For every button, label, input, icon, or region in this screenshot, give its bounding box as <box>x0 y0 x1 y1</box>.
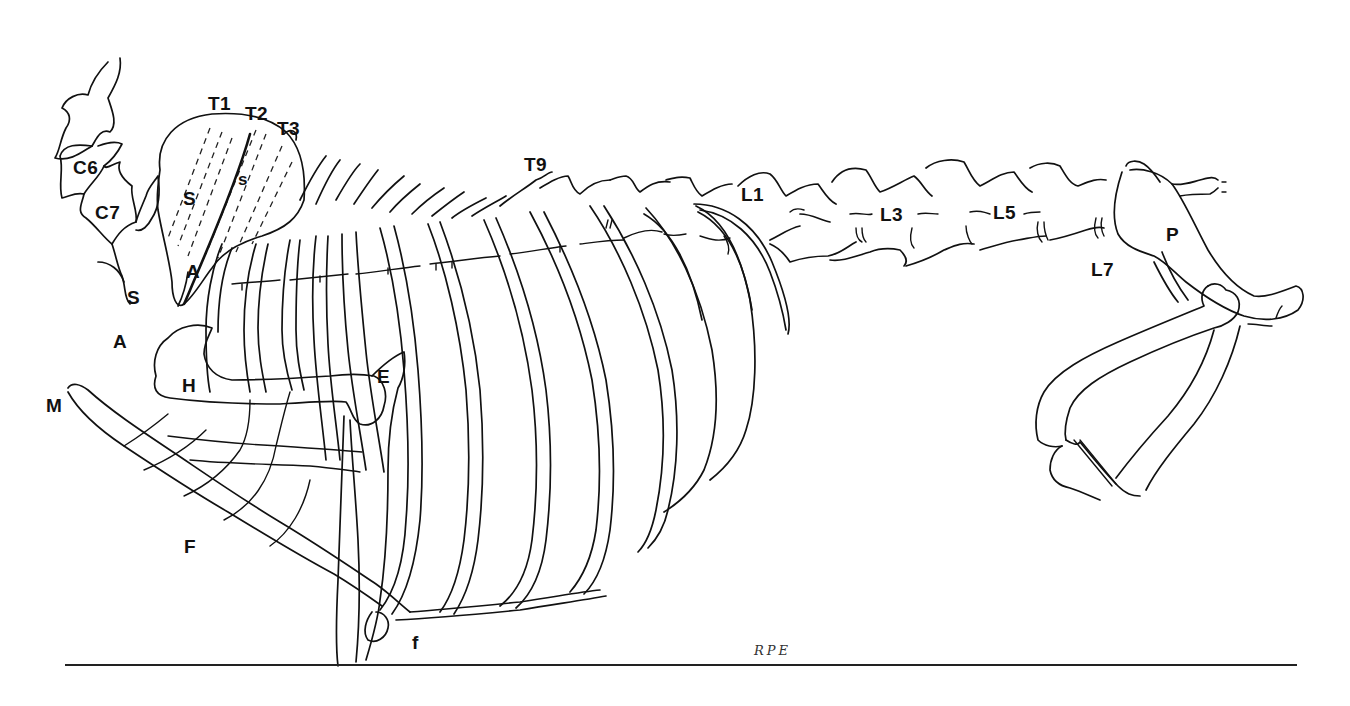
label-T3: T3 <box>277 119 300 138</box>
ribs <box>206 204 789 614</box>
label-scapular-spine-s: s <box>238 171 248 188</box>
femur <box>1036 252 1239 447</box>
scapula <box>157 114 304 306</box>
label-scapula-S: S <box>183 189 196 208</box>
radius-ulna <box>337 352 405 666</box>
label-L5: L5 <box>993 203 1016 222</box>
label-L1: L1 <box>741 185 764 204</box>
label-C6: C6 <box>73 158 98 177</box>
label-T2: T2 <box>245 104 268 123</box>
label-T9: T9 <box>524 155 547 174</box>
label-T1: T1 <box>208 94 231 113</box>
tibia-fibula <box>1050 326 1240 500</box>
label-acromion-A: A <box>186 262 200 281</box>
label-lower-A: A <box>113 332 127 351</box>
label-elbow-E: E <box>377 367 390 386</box>
baseline-rule <box>65 664 1297 666</box>
label-humerus-H: H <box>182 376 196 395</box>
label-lower-S: S <box>127 288 140 307</box>
label-L7: L7 <box>1091 260 1114 279</box>
label-L3: L3 <box>880 205 903 224</box>
label-manubrium-M: M <box>46 396 62 415</box>
artist-signature: RPE <box>754 643 791 658</box>
vertebral-bodies <box>232 230 730 290</box>
skeleton-drawing <box>0 0 1350 706</box>
thoracic-dashes <box>606 220 729 254</box>
label-F: F <box>184 537 196 556</box>
label-pelvis-P: P <box>1166 225 1179 244</box>
label-C7: C7 <box>95 203 120 222</box>
lumbar-vertebrae <box>738 160 1106 266</box>
cervical-vertebrae <box>55 58 159 304</box>
pelvis <box>1114 161 1303 326</box>
label-f: f <box>412 633 419 652</box>
thoracic-spinous-processes <box>300 156 732 218</box>
skeleton-figure: T1 T2 T3 C6 C7 S s A S A H M E F f T9 L1… <box>0 0 1350 706</box>
